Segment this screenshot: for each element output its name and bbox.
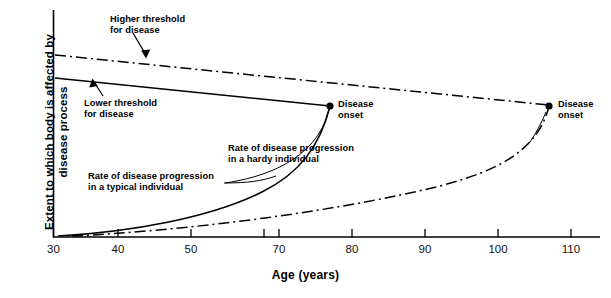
x-tick-label-110: 110 (551, 243, 591, 255)
hardy-onset-leader-icon (530, 112, 546, 142)
disease-onset-label-typical: Disease onset (338, 99, 374, 121)
higher-threshold-leader-icon (133, 33, 150, 59)
annotation-typical-progression: Rate of disease progression in a typical… (88, 171, 214, 193)
annotation-hardy-progression: Rate of disease progression in a hardy i… (228, 143, 354, 165)
x-tick-label-30: 30 (34, 243, 74, 255)
disease-onset-label-hardy: Disease onset (558, 99, 594, 121)
annotation-lower-threshold: Lower threshold for disease (84, 98, 157, 120)
x-tick-label-40: 40 (98, 243, 138, 255)
x-tick-label-90: 90 (405, 243, 445, 255)
x-tick-label-80: 80 (332, 243, 372, 255)
x-tick-label-50: 50 (171, 243, 211, 255)
x-axis-ticks (54, 229, 572, 237)
disease-progression-chart: Extent to which body is affected by dise… (0, 0, 611, 298)
x-tick-label-70: 70 (259, 243, 299, 255)
x-tick-label-100: 100 (478, 243, 518, 255)
x-axis-title: Age (years) (0, 268, 611, 282)
disease-onset-marker-hardy (545, 102, 552, 109)
annotation-higher-threshold: Higher threshold for disease (110, 14, 185, 36)
disease-onset-marker-typical (326, 102, 333, 109)
y-axis-title: Extent to which body is affected by dise… (42, 12, 70, 252)
